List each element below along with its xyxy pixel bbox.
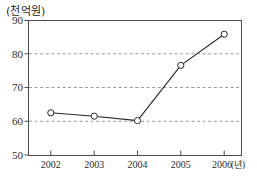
y-tick-label-90: 90 xyxy=(12,14,24,26)
gridlines xyxy=(29,54,241,122)
x-tick-label-2002: 2002 xyxy=(41,159,61,170)
data-point-2004 xyxy=(134,118,140,124)
y-axis-tick-labels: 90 80 70 60 50 xyxy=(12,14,24,161)
y-tick-label-80: 80 xyxy=(12,48,24,60)
x-axis-ticks xyxy=(51,151,224,156)
x-tick-label-2004: 2004 xyxy=(128,159,148,170)
x-axis-tick-labels: 2002 2003 2004 2005 2006 (년) xyxy=(41,159,246,170)
x-tick-label-2006: 2006 xyxy=(212,159,232,170)
plot-frame xyxy=(29,21,242,156)
y-tick-label-50: 50 xyxy=(12,149,24,161)
chart-plot-area: 90 80 70 60 50 2002 2003 2004 2005 2006 … xyxy=(0,0,257,178)
x-tick-label-2003: 2003 xyxy=(84,159,104,170)
data-point-2005 xyxy=(178,62,184,68)
data-point-2006 xyxy=(221,31,227,37)
line-chart-figure: (천억원) 90 80 70 60 50 xyxy=(0,0,257,178)
x-tick-label-2005: 2005 xyxy=(171,159,191,170)
data-point-2003 xyxy=(91,113,97,119)
y-tick-label-70: 70 xyxy=(12,81,24,93)
data-line-series-1 xyxy=(51,34,224,120)
data-point-2002 xyxy=(48,110,54,116)
data-point-markers xyxy=(48,31,228,124)
y-tick-label-60: 60 xyxy=(12,115,24,127)
x-axis-unit-label: (년) xyxy=(230,160,245,170)
